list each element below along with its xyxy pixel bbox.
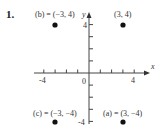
x-axis-label: x [150, 62, 155, 71]
x-tick-label-neg4: -4 [39, 76, 46, 85]
y-tick-label-4: 4 [83, 21, 87, 30]
coordinate-plane: x y -4 0 4 4 -4 (b) = (−3, 4) (3, 4) (c)… [0, 0, 161, 127]
x-axis-arrow-icon [144, 71, 150, 76]
point-b [52, 22, 57, 27]
x-tick-label-4: 4 [131, 76, 135, 85]
point-c [52, 119, 57, 124]
point-a-label: (a) = (3, −4) [103, 109, 143, 118]
y-axis-label: y [81, 10, 86, 19]
point-a [120, 119, 125, 124]
y-axis-arrow-icon [87, 12, 92, 18]
y-tick-label-neg4: -4 [78, 118, 85, 127]
origin-label: 0 [82, 77, 86, 86]
point-c-label: (c) = (−3, −4) [33, 109, 77, 118]
point-3-4-label: (3, 4) [114, 10, 132, 19]
point-b-label: (b) = (−3, 4) [35, 10, 75, 19]
point-3-4 [120, 22, 125, 27]
